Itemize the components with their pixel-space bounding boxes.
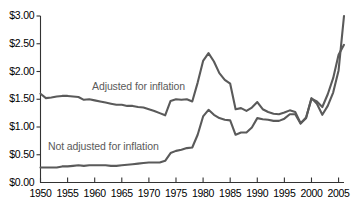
y-tick-label: $1.50	[9, 92, 34, 104]
x-axis-ticks	[41, 178, 339, 183]
gasoline-price-line-chart: $0.00$0.50$1.00$1.50$2.00$2.50$3.00 1950…	[0, 0, 352, 204]
plot-canvas	[0, 0, 352, 204]
series-label-adjusted-for-inflation: Adjusted for inflation	[92, 80, 185, 92]
y-tick-label: $0.50	[9, 148, 34, 160]
y-tick-label: $2.50	[9, 37, 34, 49]
y-tick-label: $1.00	[9, 120, 34, 132]
series-label-not-adjusted-for-inflation: Not adjusted for inflation	[48, 140, 159, 152]
y-tick-label: $3.00	[9, 9, 34, 21]
y-tick-label: $2.00	[9, 65, 34, 77]
y-axis-ticks	[37, 16, 41, 155]
series-line-adjusted	[41, 16, 345, 123]
x-tick-label: 2005	[323, 187, 352, 199]
